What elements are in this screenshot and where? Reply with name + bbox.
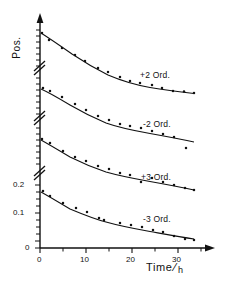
series-points-minus3 xyxy=(42,190,196,242)
y-tick-label-0.2: 0.2 xyxy=(13,180,24,189)
chart-plot-area xyxy=(0,0,230,286)
x-axis xyxy=(40,245,215,252)
series-label-minus2: -2 Ord. xyxy=(143,119,171,129)
series-curve-minus3 xyxy=(41,192,194,239)
series-curve-plus2 xyxy=(41,33,194,94)
x-tick-label-30: 30 xyxy=(172,255,181,264)
y-axis-title: Pos. xyxy=(11,26,22,70)
y-tick-label-0.1: 0.1 xyxy=(13,208,24,217)
y-tick-label-0: 0 xyxy=(25,243,29,252)
series-curve-plus3 xyxy=(41,140,194,190)
series-points-plus2 xyxy=(41,32,196,95)
series-label-minus3: -3 Ord. xyxy=(143,214,171,224)
x-tick-label-20: 20 xyxy=(126,255,135,264)
figure-container: Pos. Time/h 0.2 0.1 0 0 10 20 30 +2 Ord.… xyxy=(0,0,230,286)
series-points-plus3 xyxy=(41,138,196,192)
x-tick-label-0: 0 xyxy=(37,255,41,264)
series-curve-minus2 xyxy=(41,89,194,142)
y-axis-ticks xyxy=(35,30,40,248)
series-label-plus3: +3 Ord. xyxy=(141,172,171,182)
series-label-plus2: +2 Ord. xyxy=(140,70,170,80)
x-axis-title-unit: h xyxy=(178,265,184,275)
series-points-minus2 xyxy=(42,87,188,150)
x-axis-title-main: Time xyxy=(146,261,172,273)
x-tick-label-10: 10 xyxy=(80,255,89,264)
